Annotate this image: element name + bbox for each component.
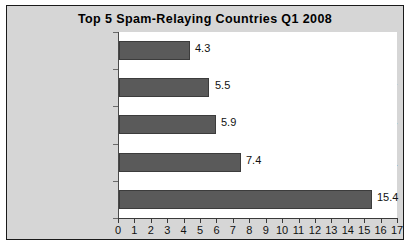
bar-value-china: 5.5 — [215, 79, 230, 91]
x-axis-tick — [151, 219, 152, 223]
x-axis-tick-label: 3 — [164, 224, 170, 236]
bar-russia — [119, 153, 241, 172]
bar-row-turkey: 5.9 — [119, 106, 397, 143]
x-axis-tick-label: 5 — [197, 224, 203, 236]
x-axis-tick-label: 17 — [391, 224, 403, 236]
x-axis-tick-label: 14 — [342, 224, 354, 236]
bar-value-united-states: 15.4 — [377, 191, 398, 203]
x-axis-tick-label: 15 — [358, 224, 370, 236]
x-axis-tick-label: 11 — [293, 224, 304, 236]
x-axis-tick — [282, 219, 283, 223]
bar-row-china: 5.5 — [119, 69, 397, 106]
bar-united-states — [119, 190, 372, 209]
x-axis-tick — [249, 219, 250, 223]
bar-china — [119, 78, 209, 97]
x-axis-tick-label: 6 — [213, 224, 219, 236]
x-axis-tick-label: 1 — [131, 224, 137, 236]
bar-value-russia: 7.4 — [246, 154, 261, 166]
x-axis-tick — [118, 219, 119, 223]
x-axis-tick — [348, 219, 349, 223]
x-axis-tick-label: 4 — [181, 224, 187, 236]
x-axis-tick-label: 0 — [115, 224, 121, 236]
chart-figure: Top 5 Spam-Relaying Countries Q1 2008 Br… — [6, 5, 404, 240]
x-axis-tick-label: 2 — [148, 224, 154, 236]
x-axis-tick — [299, 219, 300, 223]
x-axis-tick-label: 13 — [325, 224, 337, 236]
x-axis-tick — [184, 219, 185, 223]
x-axis-tick — [266, 219, 267, 223]
plot-area: 4.3 5.5 5.9 7.4 15.4 — [118, 32, 397, 218]
x-axis-line — [118, 218, 398, 219]
x-axis-tick-label: 12 — [309, 224, 321, 236]
x-axis-tick — [364, 219, 365, 223]
x-axis-tick-label: 9 — [263, 224, 269, 236]
x-axis-tick — [315, 219, 316, 223]
x-axis-tick-label: 8 — [246, 224, 252, 236]
x-axis-tick — [200, 219, 201, 223]
x-axis-tick — [233, 219, 234, 223]
bar-row-brazil: 4.3 — [119, 32, 397, 69]
bar-brazil — [119, 41, 190, 60]
bar-turkey — [119, 115, 216, 134]
x-axis-tick — [134, 219, 135, 223]
chart-title: Top 5 Spam-Relaying Countries Q1 2008 — [7, 12, 403, 26]
x-axis-tick-label: 10 — [276, 224, 288, 236]
x-axis-tick — [167, 219, 168, 223]
bar-row-russia: 7.4 — [119, 144, 397, 181]
x-axis-tick — [397, 219, 398, 223]
x-axis-tick — [216, 219, 217, 223]
x-axis-tick — [381, 219, 382, 223]
bar-value-brazil: 4.3 — [195, 42, 210, 54]
bar-value-turkey: 5.9 — [221, 116, 236, 128]
x-axis-tick — [331, 219, 332, 223]
bar-row-united-states: 15.4 — [119, 181, 397, 218]
x-axis-tick-label: 7 — [230, 224, 236, 236]
x-axis-tick-label: 16 — [374, 224, 386, 236]
